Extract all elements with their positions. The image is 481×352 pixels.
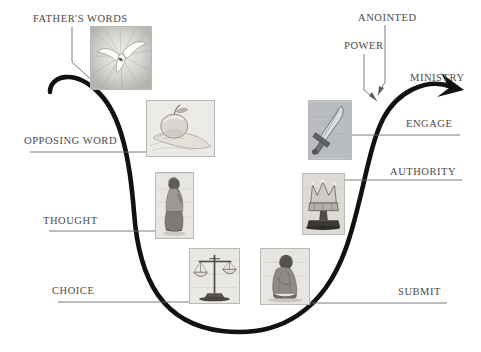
sword-image — [308, 100, 352, 160]
apple-in-hand-sketch — [147, 101, 214, 156]
label-power: POWER — [344, 40, 384, 51]
label-choice: CHOICE — [52, 285, 94, 296]
leader-arrowhead-power — [369, 92, 377, 101]
diagram-canvas: FATHER'S WORDS OPPOSING WORD THOUGHT CHO… — [0, 0, 481, 352]
label-engage: ENGAGE — [406, 118, 452, 129]
leader-anointed — [378, 25, 385, 95]
label-thought: THOUGHT — [43, 215, 98, 226]
label-authority: AUTHORITY — [390, 166, 456, 177]
apple-image — [146, 100, 215, 157]
balance-scales-sketch — [190, 249, 239, 303]
leader-arrowhead-anointed — [378, 86, 384, 95]
thinker-image — [155, 172, 194, 239]
label-ministry: MINISTRY — [410, 72, 465, 83]
label-anointed: ANOINTED — [358, 12, 417, 23]
crown-on-pedestal-sketch — [303, 174, 344, 234]
crown-image — [302, 173, 345, 235]
label-submit: SUBMIT — [398, 286, 441, 297]
scales-image — [189, 248, 240, 304]
kneeling-image — [260, 248, 310, 305]
label-opposing-word: OPPOSING WORD — [24, 135, 117, 146]
seated-thinker-sketch — [156, 173, 193, 238]
label-fathers-words: FATHER'S WORDS — [33, 13, 128, 24]
leader-power — [364, 54, 377, 101]
kneeling-figure-sketch — [261, 249, 309, 304]
sword-sketch — [309, 101, 351, 159]
dove-image — [90, 26, 152, 90]
dove-descending-sketch — [91, 27, 151, 89]
